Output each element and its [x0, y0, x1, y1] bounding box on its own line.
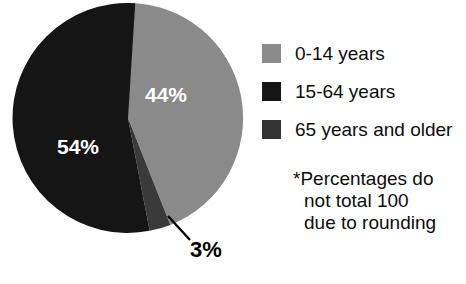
footnote: *Percentages do not total 100 due to rou… [293, 168, 436, 235]
pie-value-label-15-64-years: 54% [57, 135, 99, 159]
legend-label-0-14-years: 0-14 years [295, 44, 385, 63]
footnote-line-2: not total 100 [293, 190, 436, 212]
legend-swatch-icon-0-14-years [262, 44, 281, 63]
legend-item-65-years-and-older: 65 years and older [262, 110, 466, 148]
legend-item-0-14-years: 0-14 years [262, 34, 466, 72]
legend-label-15-64-years: 15-64 years [295, 82, 395, 101]
legend-swatch-icon-15-64-years [262, 82, 281, 101]
legend: 0-14 years 15-64 years 65 years and olde… [262, 34, 466, 148]
legend-item-15-64-years: 15-64 years [262, 72, 466, 110]
footnote-line-3: due to rounding [293, 212, 436, 234]
chart-canvas: 44% 54% 3% 0-14 years 15-64 years 65 yea… [0, 0, 466, 284]
footnote-line-1: *Percentages do [293, 168, 436, 190]
legend-label-65-years-and-older: 65 years and older [295, 120, 452, 139]
pie-chart: 44% 54% 3% [0, 0, 256, 284]
pie-value-label-0-14-years: 44% [145, 83, 187, 107]
pie-value-label-65-years-and-older: 3% [190, 237, 222, 263]
legend-swatch-icon-65-years-and-older [262, 120, 281, 139]
